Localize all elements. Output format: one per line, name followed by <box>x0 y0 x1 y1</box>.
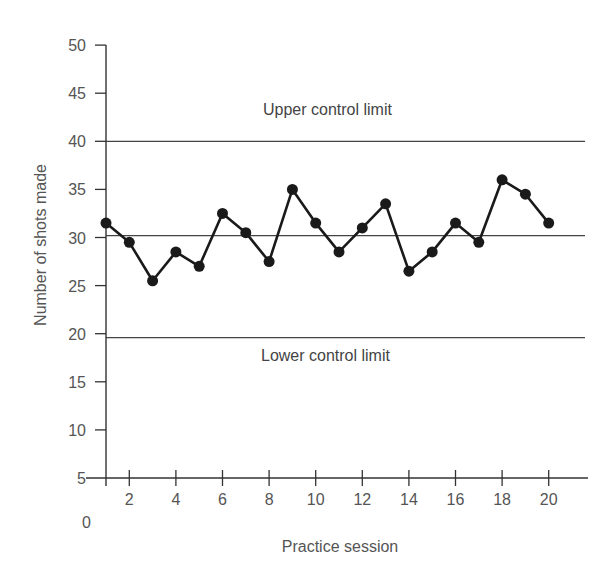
y-tick-label: 25 <box>68 278 86 295</box>
x-tick-label: 8 <box>265 491 274 508</box>
data-point-marker <box>124 237 135 248</box>
x-axis-title: Practice session <box>282 538 399 555</box>
data-point-marker <box>450 218 461 229</box>
y-tick-label: 45 <box>68 85 86 102</box>
data-point-marker <box>194 261 205 272</box>
y-tick-label: 20 <box>68 326 86 343</box>
lower-control-limit-label: Lower control limit <box>261 347 390 364</box>
data-point-marker <box>427 246 438 257</box>
data-point-marker <box>101 218 112 229</box>
data-point-marker <box>520 189 531 200</box>
data-point-marker <box>147 275 158 286</box>
y-tick-label: 5 <box>77 470 86 487</box>
data-point-marker <box>380 198 391 209</box>
y-tick-label: 30 <box>68 230 86 247</box>
x-tick-label: 12 <box>353 491 371 508</box>
x-tick-label: 18 <box>493 491 511 508</box>
data-point-marker <box>310 218 321 229</box>
y-tick-label: 50 <box>68 37 86 54</box>
data-point-marker <box>240 227 251 238</box>
x-tick-label: 10 <box>307 491 325 508</box>
y-axis-title: Number of shots made <box>32 164 49 326</box>
x-tick-label: 14 <box>400 491 418 508</box>
x-tick-label: 4 <box>171 491 180 508</box>
y-origin-label: 0 <box>82 514 91 531</box>
data-point-marker <box>543 218 554 229</box>
series-line <box>106 180 549 281</box>
data-point-marker <box>357 222 368 233</box>
x-tick-label: 16 <box>447 491 465 508</box>
data-point-marker <box>497 174 508 185</box>
data-point-marker <box>287 184 298 195</box>
control-chart: 51015202530354045502468101214161820 Uppe… <box>0 0 611 567</box>
reference-lines <box>106 141 585 337</box>
data-point-marker <box>170 246 181 257</box>
data-point-marker <box>217 208 228 219</box>
y-tick-label: 10 <box>68 422 86 439</box>
data-point-marker <box>264 256 275 267</box>
data-point-marker <box>334 246 345 257</box>
y-tick-label: 35 <box>68 181 86 198</box>
upper-control-limit-label: Upper control limit <box>263 101 392 118</box>
x-tick-label: 20 <box>540 491 558 508</box>
data-series <box>101 174 555 286</box>
x-tick-label: 6 <box>218 491 227 508</box>
y-tick-label: 15 <box>68 374 86 391</box>
y-tick-label: 40 <box>68 133 86 150</box>
data-point-marker <box>473 237 484 248</box>
data-point-marker <box>403 266 414 277</box>
x-tick-label: 2 <box>125 491 134 508</box>
